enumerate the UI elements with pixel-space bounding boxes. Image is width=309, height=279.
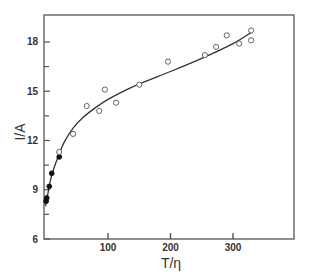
x-tick-label: 200 — [162, 242, 179, 253]
open-data-point — [70, 131, 75, 136]
y-tick-label: 15 — [27, 86, 39, 97]
filled-data-point — [47, 184, 52, 189]
open-data-point — [202, 52, 207, 57]
open-data-point — [114, 100, 119, 105]
x-tick-label: 300 — [225, 242, 242, 253]
filled-data-point — [44, 196, 49, 201]
filled-data-point — [49, 171, 54, 176]
x-tick-label: 100 — [100, 242, 117, 253]
x-axis-ticks: 100200300 — [100, 233, 242, 253]
open-data-point — [237, 41, 242, 46]
open-data-point — [224, 33, 229, 38]
y-tick-label: 9 — [32, 184, 38, 195]
y-tick-label: 12 — [27, 135, 39, 146]
plot-frame — [44, 15, 294, 239]
open-data-point — [165, 59, 170, 64]
fit-curve — [46, 32, 252, 206]
open-data-point — [97, 108, 102, 113]
open-data-point — [102, 87, 107, 92]
filled-data-point — [57, 155, 62, 160]
y-tick-label: 18 — [27, 36, 39, 47]
y-axis-ticks: 69121518 — [27, 36, 50, 244]
open-data-point — [249, 28, 254, 33]
open-data-point — [57, 149, 62, 154]
y-tick-label: 6 — [32, 234, 38, 245]
open-data-point — [137, 82, 142, 87]
x-axis-label: T/η — [161, 255, 181, 271]
data-points — [44, 28, 254, 204]
open-data-point — [214, 44, 219, 49]
y-axis-label: I/A — [12, 123, 28, 141]
chart: 69121518 100200300 T/η I/A — [0, 0, 309, 279]
open-data-point — [84, 103, 89, 108]
open-data-point — [249, 38, 254, 43]
